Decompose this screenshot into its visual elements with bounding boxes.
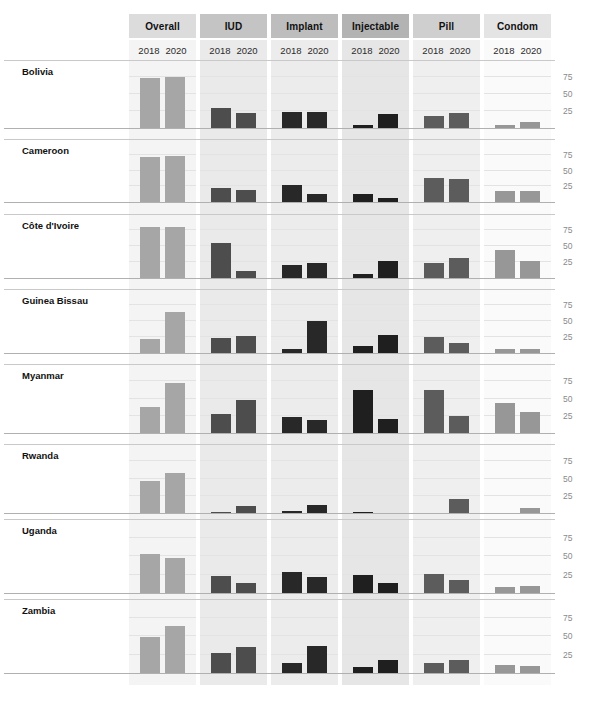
cell-cameroon-implant[interactable] — [271, 139, 338, 202]
bar-2018[interactable] — [211, 338, 231, 353]
cell-rwanda-iud[interactable] — [200, 444, 267, 513]
bar-2020[interactable] — [236, 271, 256, 278]
cell-uganda-pill[interactable] — [413, 519, 480, 593]
cell-myanmar-overall[interactable] — [129, 364, 196, 433]
cell-zambia-injectable[interactable] — [342, 599, 409, 673]
bar-2020[interactable] — [520, 412, 540, 433]
cell-bolivia-injectable[interactable] — [342, 60, 409, 128]
cell-myanmar-implant[interactable] — [271, 364, 338, 433]
bar-2018[interactable] — [211, 188, 231, 202]
cell-zambia-pill[interactable] — [413, 599, 480, 673]
cell-uganda-overall[interactable] — [129, 519, 196, 593]
cell-zambia-implant[interactable] — [271, 599, 338, 673]
cell-guinea-bissau-iud[interactable] — [200, 289, 267, 353]
cell-myanmar-pill[interactable] — [413, 364, 480, 433]
cell-uganda-condom[interactable] — [484, 519, 551, 593]
bar-2020[interactable] — [236, 506, 256, 513]
bar-2018[interactable] — [424, 390, 444, 433]
bar-2020[interactable] — [449, 660, 469, 673]
cell-uganda-implant[interactable] — [271, 519, 338, 593]
cell-bolivia-condom[interactable] — [484, 60, 551, 128]
bar-2020[interactable] — [378, 583, 398, 593]
cell-c-te-d-ivoire-implant[interactable] — [271, 214, 338, 278]
bar-2020[interactable] — [378, 261, 398, 278]
bar-2018[interactable] — [140, 554, 160, 593]
bar-2020[interactable] — [165, 77, 185, 128]
cell-uganda-injectable[interactable] — [342, 519, 409, 593]
bar-2020[interactable] — [520, 586, 540, 593]
bar-2018[interactable] — [282, 417, 302, 433]
bar-2018[interactable] — [211, 576, 231, 593]
bar-2018[interactable] — [495, 403, 515, 433]
cell-cameroon-iud[interactable] — [200, 139, 267, 202]
cell-guinea-bissau-implant[interactable] — [271, 289, 338, 353]
cell-rwanda-implant[interactable] — [271, 444, 338, 513]
cell-c-te-d-ivoire-injectable[interactable] — [342, 214, 409, 278]
bar-2020[interactable] — [449, 343, 469, 353]
bar-2020[interactable] — [236, 190, 256, 202]
cell-guinea-bissau-pill[interactable] — [413, 289, 480, 353]
bar-2020[interactable] — [449, 258, 469, 278]
bar-2020[interactable] — [449, 179, 469, 202]
cell-c-te-d-ivoire-iud[interactable] — [200, 214, 267, 278]
bar-2018[interactable] — [140, 227, 160, 278]
cell-rwanda-overall[interactable] — [129, 444, 196, 513]
cell-bolivia-overall[interactable] — [129, 60, 196, 128]
bar-2018[interactable] — [424, 178, 444, 202]
bar-2018[interactable] — [424, 337, 444, 353]
bar-2020[interactable] — [165, 558, 185, 593]
cell-c-te-d-ivoire-pill[interactable] — [413, 214, 480, 278]
bar-2020[interactable] — [449, 499, 469, 513]
bar-2018[interactable] — [140, 78, 160, 128]
cell-cameroon-injectable[interactable] — [342, 139, 409, 202]
bar-2020[interactable] — [449, 580, 469, 593]
bar-2020[interactable] — [378, 660, 398, 673]
bar-2020[interactable] — [307, 263, 327, 278]
bar-2020[interactable] — [236, 113, 256, 128]
cell-rwanda-injectable[interactable] — [342, 444, 409, 513]
bar-2018[interactable] — [424, 263, 444, 278]
cell-guinea-bissau-overall[interactable] — [129, 289, 196, 353]
bar-2020[interactable] — [307, 646, 327, 673]
bar-2020[interactable] — [165, 626, 185, 673]
cell-bolivia-pill[interactable] — [413, 60, 480, 128]
bar-2018[interactable] — [140, 407, 160, 433]
bar-2018[interactable] — [424, 663, 444, 673]
bar-2020[interactable] — [520, 191, 540, 202]
bar-2020[interactable] — [307, 194, 327, 202]
bar-2020[interactable] — [307, 420, 327, 433]
bar-2018[interactable] — [140, 339, 160, 353]
bar-2018[interactable] — [495, 250, 515, 278]
bar-2018[interactable] — [282, 185, 302, 202]
cell-uganda-iud[interactable] — [200, 519, 267, 593]
bar-2020[interactable] — [236, 583, 256, 593]
cell-rwanda-condom[interactable] — [484, 444, 551, 513]
bar-2020[interactable] — [449, 416, 469, 433]
bar-2018[interactable] — [424, 574, 444, 593]
cell-cameroon-overall[interactable] — [129, 139, 196, 202]
bar-2018[interactable] — [282, 572, 302, 593]
bar-2020[interactable] — [378, 114, 398, 128]
bar-2018[interactable] — [282, 265, 302, 278]
cell-zambia-iud[interactable] — [200, 599, 267, 673]
bar-2018[interactable] — [211, 108, 231, 128]
cell-zambia-overall[interactable] — [129, 599, 196, 673]
cell-zambia-condom[interactable] — [484, 599, 551, 673]
bar-2020[interactable] — [165, 473, 185, 513]
bar-2018[interactable] — [140, 481, 160, 513]
bar-2018[interactable] — [495, 665, 515, 673]
bar-2020[interactable] — [307, 505, 327, 513]
cell-myanmar-iud[interactable] — [200, 364, 267, 433]
bar-2018[interactable] — [495, 191, 515, 202]
bar-2020[interactable] — [449, 113, 469, 128]
cell-myanmar-condom[interactable] — [484, 364, 551, 433]
cell-cameroon-pill[interactable] — [413, 139, 480, 202]
bar-2018[interactable] — [424, 116, 444, 128]
cell-cameroon-condom[interactable] — [484, 139, 551, 202]
cell-guinea-bissau-injectable[interactable] — [342, 289, 409, 353]
bar-2020[interactable] — [236, 647, 256, 673]
bar-2018[interactable] — [282, 663, 302, 673]
bar-2018[interactable] — [211, 653, 231, 673]
bar-2020[interactable] — [165, 383, 185, 433]
bar-2018[interactable] — [211, 243, 231, 278]
